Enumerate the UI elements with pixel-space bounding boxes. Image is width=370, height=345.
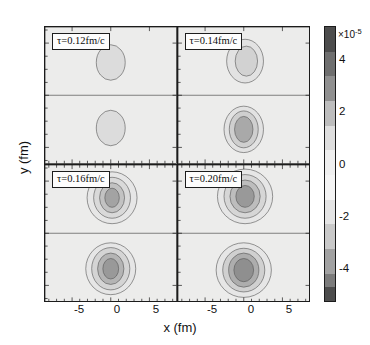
colorbar-band (325, 274, 335, 288)
colorbar-band (325, 52, 335, 77)
x-tick-label: 5 (141, 303, 171, 315)
panel-grid: τ=0.12fm/c (44, 26, 310, 302)
panel-tau-012[interactable]: τ=0.12fm/c (45, 27, 177, 164)
colorbar-tick-label: -4 (339, 262, 349, 274)
panel-label: τ=0.12fm/c (52, 33, 110, 50)
contour-lobe-negative (96, 110, 125, 145)
panel-label: τ=0.14fm/c (185, 33, 243, 50)
x-tick-label: -5 (197, 303, 227, 315)
colorbar-band (325, 76, 335, 101)
colorbar-band (325, 287, 335, 301)
colorbar-band (325, 175, 335, 200)
colorbar-band (325, 27, 335, 52)
colorbar-band (325, 224, 335, 249)
panel-tau-016[interactable]: τ=0.16fm/c (45, 165, 177, 302)
colorbar-band (325, 200, 335, 225)
colorbar-tick-label: -2 (339, 210, 349, 222)
x-axis-label: x (fm) (40, 320, 320, 335)
colorbar-tick-label: 4 (339, 53, 345, 65)
contour-lobe-negative (216, 242, 271, 297)
x-tick-label: 5 (274, 303, 304, 315)
panel-label: τ=0.16fm/c (52, 171, 110, 188)
contour-lobe-negative (224, 106, 263, 152)
figure-root: y (fm) x (fm) 5 0 -5 5 0 -5 -5 0 5 -5 0 … (0, 0, 370, 345)
x-tick-label: 0 (102, 303, 132, 315)
x-tick-label: -5 (64, 303, 94, 315)
colorbar[interactable] (324, 26, 336, 302)
contour-lobe-positive (96, 45, 125, 80)
colorbar-band (325, 249, 335, 274)
contour-lobe-negative (86, 242, 136, 294)
colorbar-band (325, 150, 335, 175)
colorbar-tick-label: 0 (339, 158, 345, 170)
panel-tau-020[interactable]: τ=0.20fm/c (178, 165, 310, 302)
colorbar-band (325, 126, 335, 151)
colorbar-band (325, 101, 335, 126)
panel-label: τ=0.20fm/c (185, 171, 243, 188)
panel-tau-014[interactable]: τ=0.14fm/c (178, 27, 310, 164)
colorbar-tick-label: 2 (339, 105, 345, 117)
colorbar-exponent-label: ×10-5 (338, 27, 362, 40)
x-tick-label: 0 (236, 303, 266, 315)
